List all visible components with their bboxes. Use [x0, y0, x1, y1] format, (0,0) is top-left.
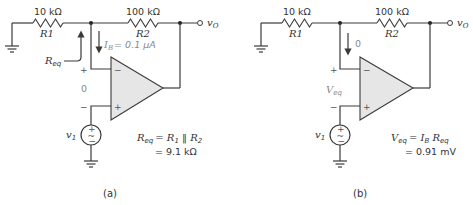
opamp-minus-sign: − — [363, 65, 371, 75]
r1-name: R1 — [39, 28, 54, 39]
resistor-r2 — [128, 19, 158, 27]
output-label: vO — [207, 17, 219, 30]
r1-name: R1 — [288, 28, 303, 39]
req-label: Req — [44, 55, 62, 68]
svg-text:−: − — [89, 136, 97, 146]
resistor-r1 — [282, 19, 312, 27]
r1-value: 10 kΩ — [34, 6, 62, 17]
source-label: v1 — [315, 129, 325, 142]
figure-a: − + + ~ − 10 kΩ R1 100 kΩ R2 vO IB= 0.1 … — [5, 6, 219, 199]
r2-name: R2 — [384, 28, 399, 39]
input-plus-label: + — [80, 65, 88, 75]
svg-text:−: − — [338, 136, 346, 146]
ground-symbol-bottom — [333, 161, 347, 167]
resistor-r2 — [377, 19, 407, 27]
req-equation-line1: Req= R1 ‖ R2 — [136, 132, 203, 145]
ground-symbol-left — [5, 23, 19, 52]
opamp-plus-sign: + — [363, 102, 371, 112]
circuit-diagram: − + + ~ − 10 kΩ R1 100 kΩ R2 vO IB= 0.1 … — [0, 0, 473, 205]
veq-label: Veq — [326, 84, 343, 97]
output-terminal — [448, 21, 453, 26]
r2-name: R2 — [135, 28, 150, 39]
req-arrow-icon — [64, 34, 81, 61]
caption-a: (a) — [103, 188, 117, 199]
output-label: vO — [457, 17, 469, 30]
voltage-source-v1: + ~ − — [330, 124, 350, 146]
r2-value: 100 kΩ — [126, 6, 160, 17]
resistor-r1 — [33, 19, 63, 27]
figure-b: − + + ~ − 10 kΩ R1 100 kΩ R2 vO 0 + Veq … — [254, 6, 469, 199]
ground-symbol-bottom — [84, 161, 98, 167]
input-plus-label: + — [330, 65, 338, 75]
r1-value: 10 kΩ — [283, 6, 311, 17]
r2-value: 100 kΩ — [375, 6, 409, 17]
ib-label: IB= 0.1 μA — [103, 39, 156, 52]
input-voltage-value: 0 — [81, 83, 87, 94]
output-terminal — [198, 21, 203, 26]
req-equation-line2: = 9.1 kΩ — [155, 146, 197, 157]
current-value: 0 — [355, 38, 361, 49]
caption-b: (b) — [353, 188, 367, 199]
veq-equation-line1: Veq= IB Req — [391, 132, 449, 145]
voltage-source-v1: + ~ − — [81, 124, 101, 146]
input-minus-label: − — [330, 102, 338, 112]
ground-symbol-left — [254, 23, 268, 52]
opamp-minus-sign: − — [114, 65, 122, 75]
source-label: v1 — [66, 129, 76, 142]
input-minus-label: − — [80, 102, 88, 112]
veq-equation-line2: = 0.91 mV — [405, 146, 456, 157]
opamp-plus-sign: + — [114, 102, 122, 112]
